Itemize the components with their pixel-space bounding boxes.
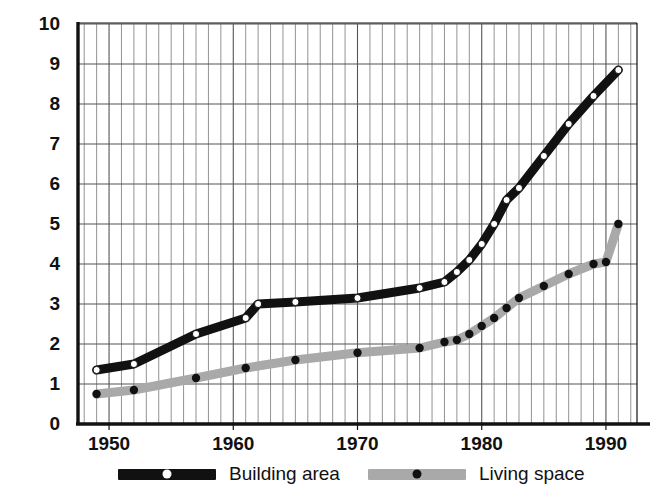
y-axis-tick-label: 2 <box>14 334 60 353</box>
legend-swatch-living-space <box>368 469 466 480</box>
legend-label-building-area: Building area <box>229 463 340 485</box>
legend-item-building-area[interactable]: Building area <box>118 459 340 489</box>
x-axis-tick-label: 1950 <box>74 434 144 453</box>
line-chart-plot <box>0 0 660 495</box>
y-axis-tick-label: 7 <box>14 134 60 153</box>
y-axis-tick-label: 8 <box>14 94 60 113</box>
legend-swatch-building-area <box>118 469 216 480</box>
y-axis-tick-label: 6 <box>14 174 60 193</box>
y-axis-tick-label: 10 <box>14 14 60 33</box>
y-axis-tick-label: 3 <box>14 294 60 313</box>
legend-item-living-space[interactable]: Living space <box>368 459 585 489</box>
legend-marker-living-space <box>413 470 422 479</box>
y-axis-tick-label: 4 <box>14 254 60 273</box>
x-axis-tick-label: 1970 <box>323 434 393 453</box>
legend-label-living-space: Living space <box>479 463 585 485</box>
chart-container: 012345678910 19501960197019801990 Buildi… <box>0 0 660 495</box>
chart-legend: Building area Living space <box>0 455 660 495</box>
y-axis-tick-label: 1 <box>14 374 60 393</box>
legend-marker-building-area <box>163 470 172 479</box>
y-axis-tick-label: 5 <box>14 214 60 233</box>
y-axis-tick-label: 0 <box>14 414 60 433</box>
x-axis-tick-label: 1960 <box>198 434 268 453</box>
y-axis-tick-label: 9 <box>14 54 60 73</box>
x-axis-tick-label: 1990 <box>571 434 641 453</box>
x-axis-tick-label: 1980 <box>447 434 517 453</box>
